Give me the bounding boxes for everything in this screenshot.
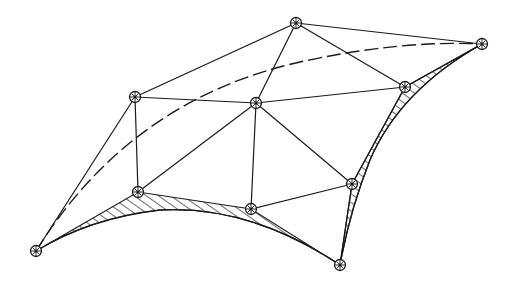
hatched-region-right bbox=[340, 44, 482, 265]
node-E bbox=[400, 82, 411, 93]
edge-A-E bbox=[296, 23, 405, 87]
nodes bbox=[31, 18, 488, 271]
membrane-structure-diagram bbox=[0, 0, 513, 291]
edge-D-F bbox=[256, 103, 352, 184]
node-C bbox=[130, 92, 141, 103]
node-D bbox=[251, 98, 262, 109]
node-H bbox=[246, 204, 257, 215]
node-F bbox=[347, 179, 358, 190]
edge-C-G bbox=[135, 97, 138, 192]
right-boundary-cable bbox=[340, 44, 482, 265]
edge-C-I bbox=[36, 97, 135, 251]
node-J bbox=[335, 260, 346, 271]
edge-D-G bbox=[138, 103, 256, 192]
edge-E-B bbox=[405, 44, 482, 87]
edge-D-H bbox=[251, 103, 256, 209]
edge-H-F bbox=[251, 184, 352, 209]
edge-A-B bbox=[296, 23, 482, 44]
node-A bbox=[291, 18, 302, 29]
edge-C-D bbox=[135, 97, 256, 103]
cable-edges bbox=[36, 23, 482, 265]
node-I bbox=[31, 246, 42, 257]
edge-E-F bbox=[352, 87, 405, 184]
edge-A-D bbox=[256, 23, 296, 103]
edge-F-J bbox=[340, 184, 352, 265]
node-G bbox=[133, 187, 144, 198]
edge-C-A bbox=[135, 23, 296, 97]
node-B bbox=[477, 39, 488, 50]
edge-D-E bbox=[256, 87, 405, 103]
